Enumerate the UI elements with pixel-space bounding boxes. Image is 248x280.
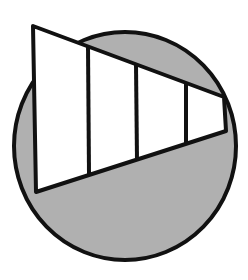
circle-trapezoid-diagram bbox=[0, 0, 248, 280]
divider-line-1 bbox=[88, 47, 89, 174]
diagram-canvas bbox=[0, 0, 248, 280]
divider-line-2 bbox=[136, 65, 137, 160]
